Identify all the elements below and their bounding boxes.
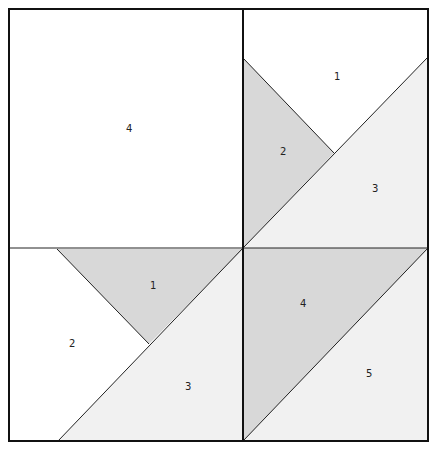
label-bl-1: 1 [150,280,156,291]
quilt-block-diagram: 4 1 2 3 1 2 3 4 5 [0,0,437,451]
label-tr-1: 1 [334,71,340,82]
label-bl-2: 2 [69,338,75,349]
label-bl-3: 3 [185,381,191,392]
label-tr-2: 2 [280,146,286,157]
label-tr-3: 3 [372,183,378,194]
label-tl-4: 4 [126,123,132,134]
label-br-5: 5 [366,368,372,379]
label-br-4: 4 [300,298,306,309]
